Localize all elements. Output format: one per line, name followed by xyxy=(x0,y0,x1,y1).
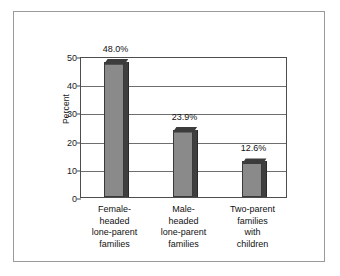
bar-side-face xyxy=(124,62,129,197)
y-tick-mark xyxy=(77,170,81,171)
y-tick-mark xyxy=(77,58,81,59)
bar xyxy=(104,62,124,197)
bar xyxy=(173,130,193,197)
chart-figure: Percent 0102030405048.0%23.9%12.6% Femal… xyxy=(0,0,340,276)
bar-front-face xyxy=(104,62,124,197)
y-tick-mark xyxy=(77,86,81,87)
bar-side-face xyxy=(262,161,267,197)
y-tick-label: 50 xyxy=(67,53,77,63)
y-tick-label: 40 xyxy=(67,81,77,91)
plot-area: 0102030405048.0%23.9%12.6% xyxy=(80,57,287,198)
category-label-line: Two-parent xyxy=(203,204,303,216)
bar-value-label: 23.9% xyxy=(172,112,198,122)
bar xyxy=(242,161,262,197)
bar-top-face xyxy=(173,127,198,133)
y-tick-mark xyxy=(77,114,81,115)
bar-top-face xyxy=(242,158,267,164)
y-tick-mark xyxy=(77,199,81,200)
x-category-label: Two-parentfamilieswithchildren xyxy=(203,204,303,250)
category-label-line: with xyxy=(203,227,303,239)
category-label-line: children xyxy=(203,239,303,251)
bar-side-face xyxy=(193,130,198,197)
y-tick-label: 0 xyxy=(72,194,77,204)
bar-front-face xyxy=(173,130,193,197)
bar-front-face xyxy=(242,161,262,197)
y-tick-label: 20 xyxy=(67,138,77,148)
y-tick-label: 30 xyxy=(67,109,77,119)
bar-top-face xyxy=(104,59,129,65)
bar-value-label: 12.6% xyxy=(241,143,267,153)
category-label-line: families xyxy=(203,216,303,228)
y-tick-mark xyxy=(77,142,81,143)
y-tick-label: 10 xyxy=(67,166,77,176)
bar-value-label: 48.0% xyxy=(103,44,129,54)
